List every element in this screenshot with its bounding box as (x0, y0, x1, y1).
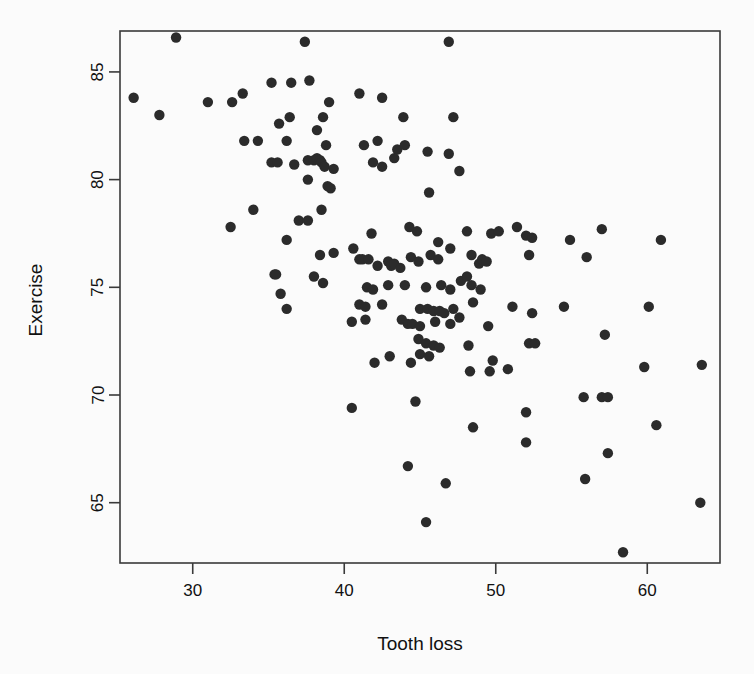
data-point (441, 478, 451, 488)
data-point (644, 301, 654, 311)
data-point (466, 250, 476, 260)
data-point (618, 547, 628, 557)
data-point (377, 161, 387, 171)
data-point (524, 250, 534, 260)
data-point (347, 317, 357, 327)
data-point (289, 159, 299, 169)
data-point (360, 301, 370, 311)
data-point (485, 366, 495, 376)
y-axis-title: Exercise (25, 264, 46, 337)
data-point (348, 243, 358, 253)
data-point (488, 355, 498, 365)
data-point (319, 161, 329, 171)
data-point (286, 77, 296, 87)
data-point (369, 357, 379, 367)
data-point (324, 97, 334, 107)
data-point (227, 97, 237, 107)
data-point (581, 252, 591, 262)
data-point (281, 235, 291, 245)
data-point (266, 77, 276, 87)
data-point (294, 215, 304, 225)
data-point (463, 340, 473, 350)
data-point (695, 497, 705, 507)
scatter-plot-svg: 30405060 6570758085 Tooth loss Exercise (0, 0, 754, 674)
x-tick-label: 40 (335, 581, 354, 600)
x-tick-label: 60 (638, 581, 657, 600)
data-point (410, 396, 420, 406)
data-point (527, 308, 537, 318)
data-point (521, 407, 531, 417)
data-point (285, 112, 295, 122)
data-point (363, 254, 373, 264)
data-point (600, 329, 610, 339)
data-point (580, 474, 590, 484)
data-point (225, 222, 235, 232)
data-point (400, 280, 410, 290)
data-point (578, 392, 588, 402)
data-point (483, 321, 493, 331)
data-point (171, 32, 181, 42)
data-point (328, 164, 338, 174)
data-point (383, 280, 393, 290)
data-point (304, 75, 314, 85)
data-point (281, 136, 291, 146)
data-point (444, 149, 454, 159)
data-point (444, 37, 454, 47)
data-point (154, 110, 164, 120)
data-point (697, 360, 707, 370)
data-point (454, 312, 464, 322)
data-point (465, 366, 475, 376)
data-point (521, 437, 531, 447)
data-point (366, 228, 376, 238)
data-point (203, 97, 213, 107)
data-point (389, 153, 399, 163)
data-point (445, 284, 455, 294)
data-point (466, 280, 476, 290)
scatter-plot-panel: 30405060 6570758085 Tooth loss Exercise (0, 0, 754, 674)
data-point (448, 112, 458, 122)
data-point (565, 235, 575, 245)
y-tick-label: 70 (89, 386, 108, 405)
data-point (445, 319, 455, 329)
data-point (253, 136, 263, 146)
data-point (248, 205, 258, 215)
data-point (439, 308, 449, 318)
data-point (530, 338, 540, 348)
data-point (318, 278, 328, 288)
data-point (433, 254, 443, 264)
data-point (274, 118, 284, 128)
data-point (468, 422, 478, 432)
data-point (503, 364, 513, 374)
data-point (377, 93, 387, 103)
data-point (639, 362, 649, 372)
data-point (424, 187, 434, 197)
data-point (415, 321, 425, 331)
data-point (377, 299, 387, 309)
data-point (475, 284, 485, 294)
data-point (454, 166, 464, 176)
data-point (271, 269, 281, 279)
data-point (239, 136, 249, 146)
data-point (309, 271, 319, 281)
data-point (559, 301, 569, 311)
data-point (395, 263, 405, 273)
data-point (603, 392, 613, 402)
data-point (368, 157, 378, 167)
data-point (430, 317, 440, 327)
data-point (303, 215, 313, 225)
data-point (656, 235, 666, 245)
x-axis-title: Tooth loss (377, 633, 463, 654)
data-point (128, 93, 138, 103)
data-point (433, 237, 443, 247)
x-tick-label: 30 (183, 581, 202, 600)
data-point (316, 205, 326, 215)
data-point (312, 125, 322, 135)
y-tick-label: 85 (89, 62, 108, 81)
data-point (354, 88, 364, 98)
data-point (315, 250, 325, 260)
data-point (400, 140, 410, 150)
data-point (421, 517, 431, 527)
data-point (424, 351, 434, 361)
data-point (359, 140, 369, 150)
data-point (462, 226, 472, 236)
